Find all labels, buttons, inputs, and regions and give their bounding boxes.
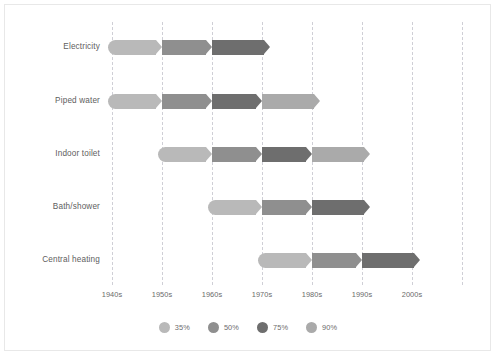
bar-segment-body xyxy=(162,94,206,109)
chart-container: ElectricityPiped waterIndoor toiletBath/… xyxy=(0,0,496,356)
bar-segment-arrowhead xyxy=(314,94,320,108)
x-tick-label: 1940s xyxy=(89,290,135,299)
bar-segment-body xyxy=(312,253,356,268)
legend-item[interactable]: 35% xyxy=(159,322,190,333)
bar-segment xyxy=(212,147,262,162)
gridline xyxy=(112,22,113,285)
bar-segment xyxy=(162,40,212,55)
category-label: Electricity xyxy=(0,42,100,51)
x-tick-label: 1950s xyxy=(139,290,185,299)
bar-segment-body xyxy=(208,200,256,215)
legend-label: 75% xyxy=(273,323,288,332)
timeline-bar xyxy=(158,147,370,162)
bar-segment-body xyxy=(108,94,156,109)
bar-segment-body xyxy=(262,200,306,215)
bar-segment-arrowhead xyxy=(414,253,420,267)
bar-segment-body xyxy=(262,147,306,162)
legend-swatch-circle-icon xyxy=(257,322,268,333)
legend-label: 90% xyxy=(322,323,337,332)
bar-segment-body xyxy=(258,253,306,268)
bar-segment-body xyxy=(212,147,256,162)
timeline-bar xyxy=(108,40,270,55)
legend-item[interactable]: 90% xyxy=(306,322,337,333)
bar-segment-body xyxy=(312,147,364,162)
chart-legend: 35%50%75%90% xyxy=(0,322,496,333)
bar-segment xyxy=(362,253,420,268)
bar-segment xyxy=(312,200,370,215)
bar-segment xyxy=(108,94,162,109)
legend-swatch-circle-icon xyxy=(159,322,170,333)
gridline xyxy=(412,22,413,285)
bar-segment-body xyxy=(108,40,156,55)
x-tick-label: 1980s xyxy=(289,290,335,299)
bar-segment xyxy=(162,94,212,109)
bar-segment-arrowhead xyxy=(364,147,370,161)
gridline xyxy=(462,22,463,285)
bar-segment-body xyxy=(212,40,264,55)
bar-segment-body xyxy=(162,40,206,55)
bar-segment-body xyxy=(312,200,364,215)
bar-segment xyxy=(212,94,262,109)
bar-segment xyxy=(312,147,370,162)
bar-segment xyxy=(262,200,312,215)
x-tick-label: 1990s xyxy=(339,290,385,299)
bar-segment xyxy=(158,147,212,162)
x-tick-label: 2000s xyxy=(389,290,435,299)
bar-segment-arrowhead xyxy=(264,40,270,54)
legend-item[interactable]: 50% xyxy=(208,322,239,333)
timeline-bar xyxy=(108,94,320,109)
bar-segment xyxy=(262,94,320,109)
category-label: Piped water xyxy=(0,96,100,105)
category-label: Central heating xyxy=(0,255,100,264)
legend-label: 50% xyxy=(224,323,239,332)
bar-segment xyxy=(108,40,162,55)
bar-segment xyxy=(208,200,262,215)
bar-segment-body xyxy=(262,94,314,109)
legend-swatch-circle-icon xyxy=(208,322,219,333)
x-tick-label: 1960s xyxy=(189,290,235,299)
timeline-bar xyxy=(258,253,420,268)
bar-segment-body xyxy=(362,253,414,268)
legend-swatch-circle-icon xyxy=(306,322,317,333)
legend-item[interactable]: 75% xyxy=(257,322,288,333)
bar-segment xyxy=(262,147,312,162)
bar-segment-body xyxy=(212,94,256,109)
bar-segment-arrowhead xyxy=(364,200,370,214)
bar-segment xyxy=(212,40,270,55)
category-label: Indoor toilet xyxy=(0,149,100,158)
bar-segment xyxy=(312,253,362,268)
category-label: Bath/shower xyxy=(0,202,100,211)
timeline-bar xyxy=(208,200,370,215)
bar-segment xyxy=(258,253,312,268)
legend-label: 35% xyxy=(175,323,190,332)
x-tick-label: 1970s xyxy=(239,290,285,299)
bar-segment-body xyxy=(158,147,206,162)
